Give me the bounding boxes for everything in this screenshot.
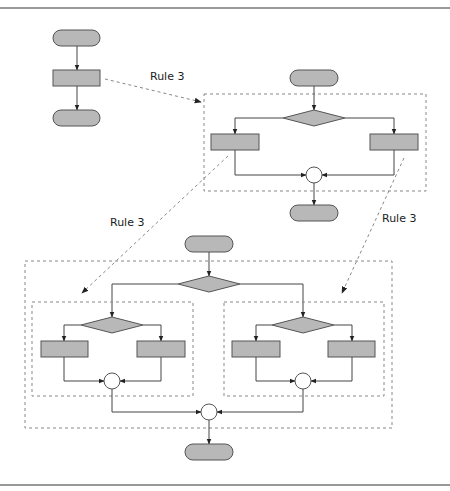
process-box-right [370, 134, 418, 150]
inner-left-process-left [41, 341, 88, 357]
outer-decision-diamond [178, 276, 240, 292]
end-terminal [290, 205, 338, 221]
rule-label-right: Rule 3 [382, 212, 416, 225]
start-terminal [290, 70, 338, 86]
original-sequence [53, 30, 100, 126]
outer-merge [201, 404, 217, 420]
end-terminal [185, 444, 233, 460]
diagram-canvas: Rule 3 Rule 3 Rule 3 [0, 0, 450, 491]
rule-arrow-left [82, 156, 228, 293]
rule-arrow-right [342, 158, 404, 293]
inner-right-process-left [232, 341, 280, 357]
rule-label-left: Rule 3 [110, 216, 144, 229]
inner-right-merge [295, 373, 311, 389]
decision-diamond [283, 110, 345, 126]
process-box [53, 70, 100, 86]
start-terminal [53, 30, 100, 46]
inner-left-merge [104, 373, 120, 389]
merge-circle [306, 167, 322, 183]
end-terminal [53, 110, 100, 126]
inner-left-decision [81, 317, 143, 333]
rule-label-top: Rule 3 [150, 70, 184, 83]
rule3-result [204, 70, 426, 221]
inner-right-process-right [328, 341, 375, 357]
inner-right-decision [272, 317, 334, 333]
inner-left-process-right [137, 341, 185, 357]
process-box-left [211, 134, 259, 150]
start-terminal [185, 236, 233, 252]
nested-rule3-result [25, 236, 392, 460]
